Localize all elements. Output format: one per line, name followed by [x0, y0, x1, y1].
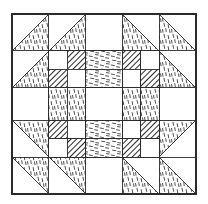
nine-patch-top-left [49, 51, 86, 88]
center-square [86, 88, 123, 121]
sash-bottom-inner [86, 120, 123, 138]
sash-bottom [86, 139, 123, 157]
nine-patch-bottom-right [122, 120, 159, 157]
sash-left [49, 88, 67, 121]
nine-patch-bottom-left [49, 120, 86, 157]
sash-top [86, 51, 123, 69]
sash-right [141, 88, 159, 121]
sash-right-inner [122, 88, 140, 121]
quilt-block-svg [0, 0, 208, 204]
sash-top-inner [86, 69, 123, 87]
sash-left-inner [67, 88, 85, 121]
nine-patch-top-right [122, 51, 159, 88]
quilt-diagram-container [0, 0, 208, 204]
